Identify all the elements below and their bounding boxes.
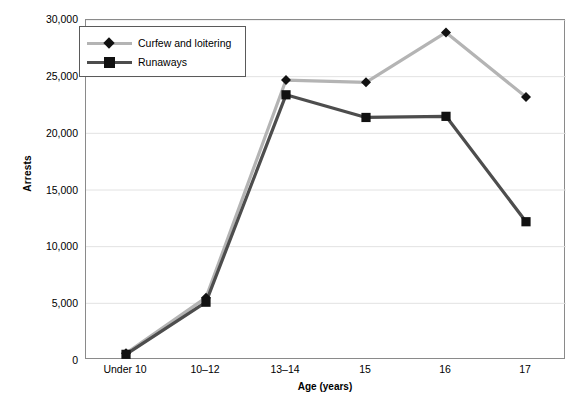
data-point-square (281, 90, 290, 99)
y-axis-tick-labels: 30,000 25,000 20,000 15,000 10,000 5,000… (24, 0, 78, 409)
data-point-square (361, 113, 370, 122)
y-tick-label: 0 (24, 355, 78, 366)
series-markers (121, 27, 531, 358)
series-line-curfew (126, 32, 526, 353)
legend-swatch-curfew (87, 36, 132, 50)
x-axis-tick-labels: Under 1010–1213–14151617 (85, 363, 565, 381)
square-marker-icon (104, 57, 115, 68)
data-point-square (521, 217, 530, 226)
y-tick-label: 30,000 (24, 14, 78, 25)
data-point-square (441, 112, 450, 121)
x-axis-title: Age (years) (85, 381, 565, 392)
legend-swatch-runaways (87, 55, 132, 69)
legend: Curfew and loitering Runaways (79, 26, 246, 77)
data-point-square (121, 350, 130, 359)
series-lines (126, 32, 526, 354)
legend-entry-runaways: Runaways (80, 52, 245, 71)
diamond-marker-icon (103, 37, 114, 48)
y-tick-label: 5,000 (24, 298, 78, 309)
y-tick-label: 15,000 (24, 185, 78, 196)
y-tick-label: 10,000 (24, 241, 78, 252)
legend-label: Runaways (138, 56, 187, 68)
legend-label: Curfew and loitering (138, 37, 231, 49)
line-chart: Arrests 30,000 25,000 20,000 15,000 10,0… (0, 0, 587, 409)
data-point-square (201, 298, 210, 307)
x-tick-label: 17 (475, 363, 575, 376)
y-tick-label: 20,000 (24, 128, 78, 139)
legend-entry-curfew: Curfew and loitering (80, 33, 245, 52)
y-tick-label: 25,000 (24, 71, 78, 82)
